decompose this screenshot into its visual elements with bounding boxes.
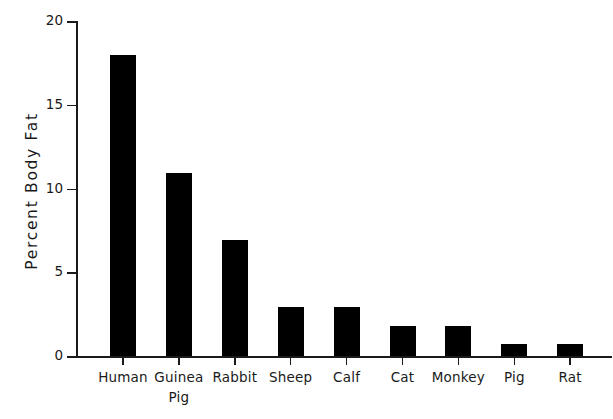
x-axis-line	[76, 356, 612, 358]
x-axis-tick-label: Sheep	[269, 369, 312, 385]
y-axis-line	[76, 21, 78, 357]
x-axis-tick	[514, 357, 516, 365]
x-axis-tick-label-line: Rabbit	[212, 369, 257, 385]
x-axis-tick-label-line: Monkey	[432, 369, 485, 385]
x-axis-tick	[234, 357, 236, 365]
bar	[557, 344, 583, 356]
y-axis-tick-label: 15	[0, 96, 63, 112]
x-axis-tick	[122, 357, 124, 365]
bar	[166, 173, 192, 356]
y-axis-tick	[67, 189, 76, 191]
x-axis-tick	[402, 357, 404, 365]
x-axis-tick-label: Human	[98, 369, 148, 385]
x-axis-tick-label: Monkey	[432, 369, 485, 385]
x-axis-tick-label: GuineaPig	[154, 369, 203, 405]
bar	[445, 326, 471, 356]
x-axis-tick-label: Calf	[333, 369, 360, 385]
y-axis-tick	[67, 356, 76, 358]
y-axis-tick-label: 5	[0, 263, 63, 279]
x-axis-tick-label: Rabbit	[212, 369, 257, 385]
bar	[110, 55, 136, 357]
x-axis-tick	[569, 357, 571, 365]
x-axis-tick-label-line: Pig	[154, 389, 203, 405]
x-axis-tick-label-line: Cat	[391, 369, 415, 385]
x-axis-tick-label-line: Guinea	[154, 369, 203, 385]
x-axis-tick-label-line: Calf	[333, 369, 360, 385]
x-axis-tick-label: Pig	[504, 369, 525, 385]
bar	[222, 240, 248, 356]
y-axis-tick-label: 10	[0, 180, 63, 196]
y-axis-tick	[67, 105, 76, 107]
x-axis-tick	[178, 357, 180, 365]
y-axis-tick	[67, 272, 76, 274]
x-axis-tick	[290, 357, 292, 365]
x-axis-tick-label-line: Pig	[504, 369, 525, 385]
x-axis-tick-label-line: Rat	[559, 369, 582, 385]
bar	[278, 307, 304, 356]
x-axis-tick	[458, 357, 460, 365]
x-axis-tick-label-line: Human	[98, 369, 148, 385]
x-axis-tick-label-line: Sheep	[269, 369, 312, 385]
bar	[334, 307, 360, 356]
x-axis-tick-label: Rat	[559, 369, 582, 385]
y-axis-tick	[67, 21, 76, 23]
bar	[501, 344, 527, 356]
x-axis-tick-label: Cat	[391, 369, 415, 385]
x-axis-tick	[346, 357, 348, 365]
bar	[390, 326, 416, 356]
y-axis-tick-label: 0	[0, 347, 63, 363]
bar-chart: Percent Body Fat 05101520 HumanGuineaPig…	[0, 0, 613, 419]
y-axis-tick-label: 20	[0, 12, 63, 28]
